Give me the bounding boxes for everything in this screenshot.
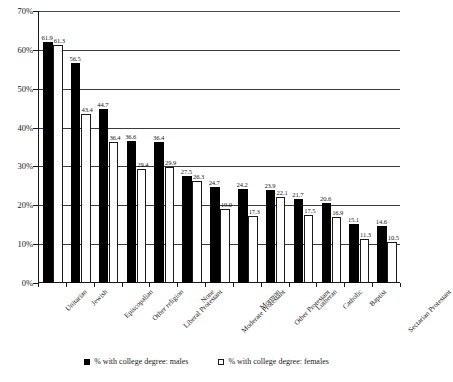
bar-female[interactable] xyxy=(387,242,397,283)
bar-female[interactable] xyxy=(81,114,91,283)
y-axis-tick-label: 50% xyxy=(17,84,33,94)
bar-group: 44.736.4 xyxy=(95,11,123,283)
bar-value-label-male: 56.5 xyxy=(69,55,80,62)
x-axis-category-label: Jewish xyxy=(89,288,109,308)
bar-male[interactable] xyxy=(377,226,387,283)
bar-group: 56.543.4 xyxy=(67,11,95,283)
bar-male[interactable] xyxy=(182,176,192,283)
bar-female[interactable] xyxy=(304,215,314,283)
bar-value-label-female: 43.4 xyxy=(82,106,93,113)
bar-male[interactable] xyxy=(99,109,109,283)
bar-male[interactable] xyxy=(238,189,248,283)
x-axis-tick-mark xyxy=(233,283,234,287)
bar-value-label-female: 26.3 xyxy=(193,173,204,180)
x-axis-category-label: Baptist xyxy=(368,288,388,308)
bar-group: 21.717.5 xyxy=(290,11,318,283)
bar-value-label-male: 20.6 xyxy=(320,195,331,202)
bar-male[interactable] xyxy=(154,142,164,283)
y-axis-tick-label: 20% xyxy=(17,200,33,210)
bar-male[interactable] xyxy=(266,190,276,283)
x-axis-tick-mark xyxy=(38,283,39,287)
bar-male[interactable] xyxy=(127,141,137,283)
bar-female[interactable] xyxy=(165,167,175,283)
legend-item-females[interactable]: % with college degree: females xyxy=(218,357,328,366)
bar-value-label-female: 36.4 xyxy=(109,134,120,141)
bar-value-label-female: 10.5 xyxy=(388,234,399,241)
bar-group: 20.616.9 xyxy=(317,11,345,283)
bar-male[interactable] xyxy=(210,187,220,283)
x-axis-tick-mark xyxy=(177,283,178,287)
x-axis-tick-mark xyxy=(94,283,95,287)
bar-value-label-male: 36.6 xyxy=(125,133,136,140)
y-axis-tick-label: 60% xyxy=(17,45,33,55)
x-axis-tick-mark xyxy=(122,283,123,287)
filled-square-marker-icon xyxy=(84,359,90,365)
x-axis-category-labels: UnitarianJewishEpiscopalianOther religio… xyxy=(0,288,413,350)
bar-female[interactable] xyxy=(360,239,370,283)
chart-legend: % with college degree: males % with coll… xyxy=(0,357,413,366)
x-axis-category-label: Other religion xyxy=(151,288,185,322)
bar-value-label-male: 24.2 xyxy=(237,181,248,188)
bar-female[interactable] xyxy=(332,217,342,283)
bar-value-label-male: 61.9 xyxy=(42,34,53,41)
bar-group: 15.111.3 xyxy=(345,11,373,283)
x-axis-tick-mark xyxy=(344,283,345,287)
x-axis-category-label: Sectarian Protestant xyxy=(407,288,453,334)
bar-female[interactable] xyxy=(53,45,63,283)
bar-female[interactable] xyxy=(192,181,202,283)
bar-group: 27.526.3 xyxy=(178,11,206,283)
bar-male[interactable] xyxy=(71,63,81,283)
y-axis-tick-label: 0% xyxy=(22,278,33,288)
bar-value-label-female: 19.0 xyxy=(221,201,232,208)
legend-label-males: % with college degree: males xyxy=(94,357,188,366)
x-axis-tick-mark xyxy=(149,283,150,287)
bar-group: 24.217.3 xyxy=(234,11,262,283)
y-axis-tick-label: 30% xyxy=(17,161,33,171)
bar-female[interactable] xyxy=(109,142,119,283)
x-axis-category-label: Unitarian xyxy=(64,288,89,313)
bar-group: 36.629.4 xyxy=(123,11,151,283)
bar-value-label-female: 29.4 xyxy=(137,161,148,168)
x-axis-tick-mark xyxy=(289,283,290,287)
hollow-square-marker-icon xyxy=(218,359,224,365)
bar-value-label-female: 22.1 xyxy=(276,189,287,196)
x-axis-tick-mark xyxy=(261,283,262,287)
bar-female[interactable] xyxy=(276,197,286,283)
bar-female[interactable] xyxy=(220,209,230,283)
x-axis-category-label: Catholic xyxy=(342,288,365,311)
bar-female[interactable] xyxy=(137,169,147,283)
bar-value-label-male: 36.4 xyxy=(153,134,164,141)
bar-value-label-male: 27.5 xyxy=(181,168,192,175)
bar-male[interactable] xyxy=(294,199,304,283)
bar-male[interactable] xyxy=(322,203,332,283)
bar-group: 24.719.0 xyxy=(206,11,234,283)
y-axis-tick-label: 10% xyxy=(17,239,33,249)
bar-value-label-female: 16.9 xyxy=(332,209,343,216)
bar-group: 23.922.1 xyxy=(262,11,290,283)
bar-group: 61.961.3 xyxy=(39,11,67,283)
legend-label-females: % with college degree: females xyxy=(228,357,328,366)
x-axis-category-label: Episcopalian xyxy=(122,288,154,320)
x-axis-tick-mark xyxy=(66,283,67,287)
bar-value-label-male: 14.6 xyxy=(376,218,387,225)
bar-male[interactable] xyxy=(43,42,53,283)
bar-groups: 61.961.356.543.444.736.436.629.436.429.9… xyxy=(39,11,400,283)
bar-female[interactable] xyxy=(248,216,258,283)
bar-male[interactable] xyxy=(349,224,359,283)
y-axis-tick-label: 70% xyxy=(17,6,33,16)
x-axis-tick-mark xyxy=(316,283,317,287)
y-axis-tick-label: 40% xyxy=(17,123,33,133)
bar-group: 14.610.5 xyxy=(373,11,401,283)
x-axis-tick-mark xyxy=(400,283,401,287)
bar-value-label-female: 11.3 xyxy=(360,231,371,238)
y-axis: 0%10%20%30%40%50%60%70% xyxy=(0,0,38,283)
bar-value-label-male: 23.9 xyxy=(264,182,275,189)
bar-value-label-female: 17.5 xyxy=(304,207,315,214)
x-axis-tick-mark xyxy=(372,283,373,287)
legend-item-males[interactable]: % with college degree: males xyxy=(84,357,188,366)
bar-value-label-male: 24.7 xyxy=(209,179,220,186)
bar-value-label-male: 21.7 xyxy=(292,191,303,198)
bar-value-label-male: 44.7 xyxy=(97,101,108,108)
bar-value-label-female: 61.3 xyxy=(54,37,65,44)
